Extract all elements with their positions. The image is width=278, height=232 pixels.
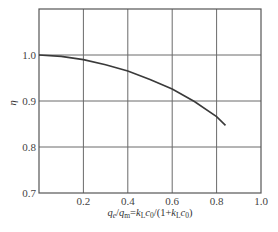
x-tick-label: 0.6 bbox=[165, 195, 179, 207]
x-tick-label: 0.8 bbox=[210, 195, 224, 207]
eta-curve bbox=[39, 55, 226, 125]
y-axis-label: η bbox=[7, 100, 18, 105]
y-tick-label: 0.9 bbox=[22, 95, 36, 107]
y-tick-labels: 0.70.80.91.0 bbox=[22, 49, 36, 199]
x-tick-label: 1.0 bbox=[254, 195, 268, 207]
y-tick-label: 1.0 bbox=[22, 49, 36, 61]
x-axis-label: qe/qm=kLc0/(1+kLc0) bbox=[108, 207, 194, 220]
grid-lines bbox=[39, 9, 261, 193]
chart: 0.20.40.60.81.0 0.70.80.91.0 η qe/qm=kLc… bbox=[0, 0, 278, 232]
x-tick-labels: 0.20.40.60.81.0 bbox=[77, 195, 269, 207]
y-tick-label: 0.7 bbox=[22, 187, 36, 199]
x-tick-label: 0.4 bbox=[121, 195, 135, 207]
y-tick-label: 0.8 bbox=[22, 141, 36, 153]
x-tick-label: 0.2 bbox=[77, 195, 91, 207]
